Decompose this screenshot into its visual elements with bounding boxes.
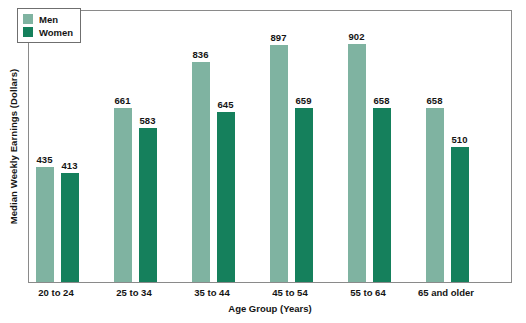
bar-men: 902 xyxy=(348,44,366,282)
bar-men: 661 xyxy=(114,108,132,282)
bar-value-label: 902 xyxy=(349,31,365,42)
bar-group: 658510 xyxy=(426,11,469,282)
x-tick-label: 65 and older xyxy=(418,287,474,298)
bar-group: 661583 xyxy=(114,11,157,282)
x-tick-label: 35 to 44 xyxy=(194,287,229,298)
legend-label-men: Men xyxy=(39,14,58,25)
bar-men: 836 xyxy=(192,62,210,283)
bar-group: 836645 xyxy=(192,11,235,282)
bar-value-label: 583 xyxy=(140,115,156,126)
bar-value-label: 645 xyxy=(218,99,234,110)
bar-men: 897 xyxy=(270,45,288,282)
bar-women: 658 xyxy=(373,108,391,282)
bar-group: 902658 xyxy=(348,11,391,282)
bar-value-label: 659 xyxy=(296,95,312,106)
bar-value-label: 413 xyxy=(62,160,78,171)
x-tick-label: 45 to 54 xyxy=(272,287,307,298)
plot-area: 435413661583836645897659902658658510 xyxy=(28,10,512,283)
bar-women: 645 xyxy=(217,112,235,282)
x-axis-title: Age Group (Years) xyxy=(28,303,512,314)
bar-women: 413 xyxy=(61,173,79,282)
bar-chart-figure: Median Weekly Earnings (Dollars) 4354136… xyxy=(0,0,526,323)
bar-women: 583 xyxy=(139,128,157,282)
legend-swatch-men-icon xyxy=(23,14,33,24)
bar-group: 435413 xyxy=(36,11,79,282)
bar-value-label: 661 xyxy=(115,95,131,106)
bar-women: 510 xyxy=(451,147,469,282)
bar-value-label: 510 xyxy=(452,134,468,145)
chart-legend: Men Women xyxy=(17,8,81,43)
bar-value-label: 836 xyxy=(193,49,209,60)
legend-label-women: Women xyxy=(39,27,73,38)
x-tick-label: 20 to 24 xyxy=(38,287,73,298)
bar-value-label: 658 xyxy=(427,95,443,106)
legend-item-men: Men xyxy=(23,13,73,25)
x-axis-tick-labels: 20 to 2425 to 3435 to 4445 to 5455 to 64… xyxy=(28,287,512,301)
bar-group: 897659 xyxy=(270,11,313,282)
x-tick-label: 55 to 64 xyxy=(350,287,385,298)
legend-swatch-women-icon xyxy=(23,27,33,37)
bar-men: 435 xyxy=(36,167,54,282)
bar-men: 658 xyxy=(426,108,444,282)
legend-item-women: Women xyxy=(23,26,73,38)
x-tick-label: 25 to 34 xyxy=(116,287,151,298)
bars-layer: 435413661583836645897659902658658510 xyxy=(29,11,511,282)
y-axis-title-text: Median Weekly Earnings (Dollars) xyxy=(9,68,20,224)
bar-value-label: 658 xyxy=(374,95,390,106)
bar-value-label: 435 xyxy=(37,154,53,165)
bar-value-label: 897 xyxy=(271,32,287,43)
y-axis-title: Median Weekly Earnings (Dollars) xyxy=(0,0,28,292)
bar-women: 659 xyxy=(295,108,313,282)
